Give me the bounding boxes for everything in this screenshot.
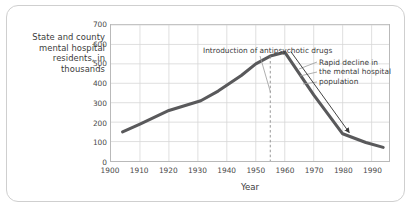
- figure-card: State and county mental hospital residen…: [6, 5, 405, 202]
- x-axis-tick-label: 1960: [276, 166, 295, 175]
- x-axis-tick-label: 1910: [130, 166, 149, 175]
- x-axis-tick-labels: 1900191019201930194019501960197019801990: [110, 166, 390, 178]
- annotation-line: the mental hospital: [319, 67, 391, 76]
- annotation-line: Rapid decline in: [319, 58, 391, 67]
- x-axis-tick-label: 1930: [188, 166, 207, 175]
- x-axis-tick-label: 1980: [334, 166, 353, 175]
- annotation-line: population: [319, 77, 391, 86]
- x-axis-tick-label: 1950: [246, 166, 265, 175]
- annotation-antipsychotic-drugs: Introduction of antipsychotic drugs: [203, 46, 332, 55]
- x-axis-tick-label: 1990: [363, 166, 382, 175]
- x-axis-tick-label: 1920: [159, 166, 178, 175]
- x-axis-tick-label: 1940: [217, 166, 236, 175]
- x-axis-title: Year: [110, 182, 390, 192]
- annotation-line: Introduction of antipsychotic drugs: [203, 46, 332, 55]
- annotation-rapid-decline: Rapid decline in the mental hospital pop…: [319, 58, 391, 86]
- x-axis-tick-label: 1970: [305, 166, 324, 175]
- x-axis-tick-label: 1900: [101, 166, 120, 175]
